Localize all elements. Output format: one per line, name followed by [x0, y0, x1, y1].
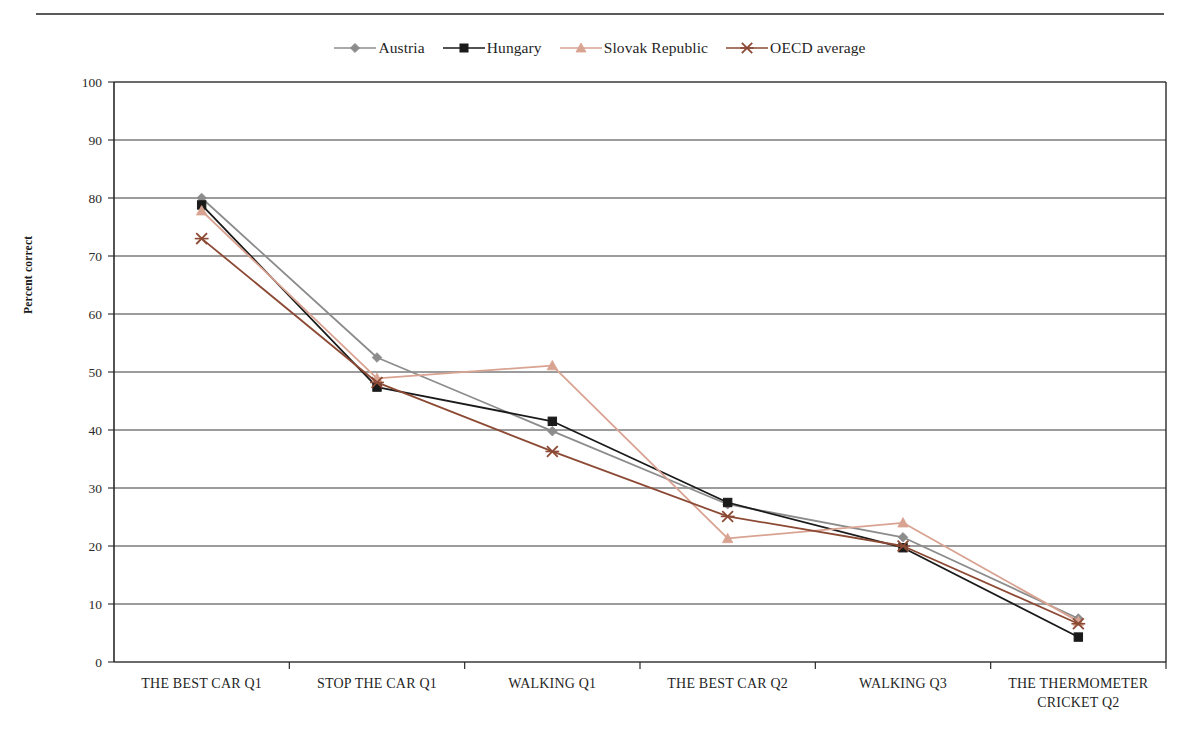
x-tick-label: THE BEST CAR Q2: [667, 676, 788, 691]
y-tick-label: 10: [89, 597, 103, 612]
data-point: [898, 533, 908, 543]
series-slovak-republic: [196, 206, 1083, 626]
data-point: [1074, 633, 1082, 641]
data-point: [545, 446, 559, 457]
y-tick-label: 40: [89, 423, 103, 438]
series-line: [202, 205, 1079, 637]
x-tick-label: WALKING Q1: [508, 676, 596, 691]
data-point: [548, 417, 556, 425]
y-tick-label: 100: [82, 75, 103, 90]
y-tick-label: 50: [89, 365, 103, 380]
y-tick-label: 70: [89, 249, 103, 264]
series-line: [202, 198, 1079, 619]
series-austria: [197, 193, 1083, 623]
y-tick-label: 60: [89, 307, 103, 322]
y-tick-label: 0: [95, 655, 102, 670]
x-tick-label: WALKING Q3: [859, 676, 947, 691]
line-chart: 0102030405060708090100THE BEST CAR Q1STO…: [0, 0, 1198, 744]
data-point: [721, 511, 735, 522]
series-line: [202, 239, 1079, 624]
series-line: [202, 211, 1079, 622]
y-tick-label: 80: [89, 191, 103, 206]
x-tick-label: THE THERMOMETERCRICKET Q2: [1008, 676, 1148, 710]
y-tick-label: 90: [89, 133, 103, 148]
x-tick-label: STOP THE CAR Q1: [317, 676, 437, 691]
data-point: [195, 233, 209, 244]
y-tick-label: 20: [89, 539, 103, 554]
y-tick-label: 30: [89, 481, 103, 496]
x-tick-label: THE BEST CAR Q1: [141, 676, 262, 691]
data-point: [723, 498, 731, 506]
series-oecd-average: [195, 233, 1085, 629]
series-hungary: [197, 201, 1082, 642]
data-point: [548, 426, 558, 436]
chart-page: AustriaHungarySlovak RepublicOECD averag…: [0, 0, 1198, 744]
